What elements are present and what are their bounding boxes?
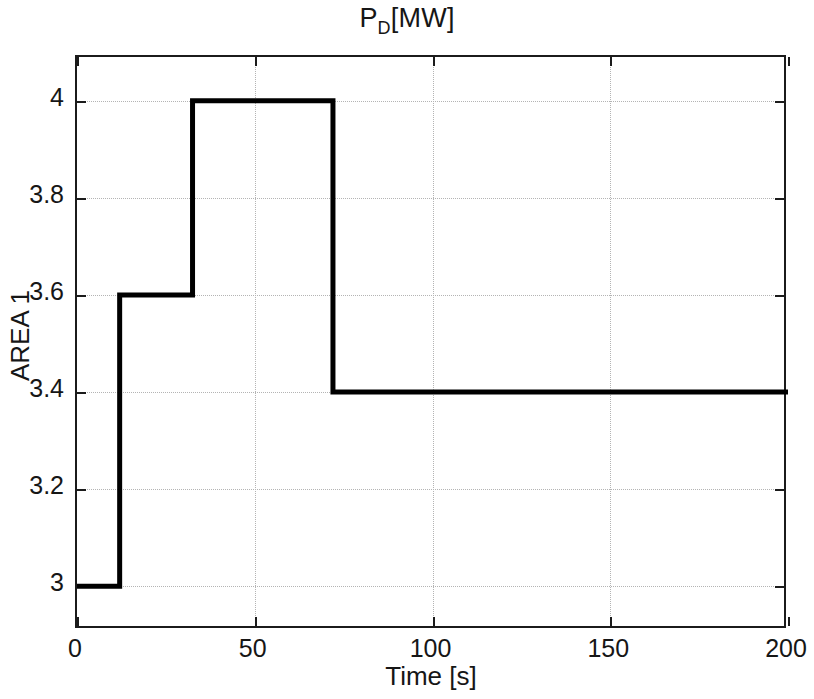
y-tick-label: 3.8 [0,180,64,209]
y-tick-label: 3.6 [0,277,64,306]
y-axis-tick-right [775,295,784,297]
x-axis-tick [255,617,257,626]
y-tick-label: 3 [0,568,64,597]
x-tick-label: 50 [208,634,298,663]
y-axis-tick [77,392,86,394]
chart-figure: PD[MW] AREA 1 Time [s] 050100150200 33.2… [0,0,814,699]
gridline-horizontal [77,489,784,490]
chart-title-base: P [359,3,377,33]
y-tick-label: 4 [0,83,64,112]
gridline-horizontal [77,198,784,199]
y-tick-label: 3.2 [0,471,64,500]
gridline-vertical [433,57,434,626]
x-axis-tick [77,617,79,626]
y-axis-tick-right [775,392,784,394]
x-axis-tick-top [433,57,435,66]
chart-title: PD[MW] [0,2,814,37]
x-axis-label: Time [s] [75,661,787,692]
gridline-vertical [255,57,256,626]
x-axis-tick-top [610,57,612,66]
y-axis-tick-right [775,101,784,103]
chart-title-tail: [MW] [391,3,455,33]
y-axis-tick [77,586,86,588]
chart-title-subscript: D [378,18,391,38]
x-tick-label: 150 [563,634,653,663]
x-tick-label: 100 [386,634,476,663]
x-axis-tick [610,617,612,626]
gridline-horizontal [77,101,784,102]
plot-area [75,55,786,628]
y-axis-tick [77,489,86,491]
x-axis-tick [433,617,435,626]
x-axis-tick-top [788,57,790,66]
x-tick-label: 0 [30,634,120,663]
y-axis-tick [77,295,86,297]
y-axis-tick [77,198,86,200]
x-tick-label: 200 [741,634,814,663]
y-tick-label: 3.4 [0,374,64,403]
gridline-horizontal [77,586,784,587]
gridline-horizontal [77,295,784,296]
x-axis-tick [788,617,790,626]
y-axis-label: AREA 1 [5,211,36,461]
x-axis-tick-top [77,57,79,66]
y-axis-tick [77,101,86,103]
y-axis-tick-right [775,586,784,588]
gridline-vertical [610,57,611,626]
gridline-horizontal [77,392,784,393]
y-axis-tick-right [775,198,784,200]
x-axis-tick-top [255,57,257,66]
y-axis-tick-right [775,489,784,491]
